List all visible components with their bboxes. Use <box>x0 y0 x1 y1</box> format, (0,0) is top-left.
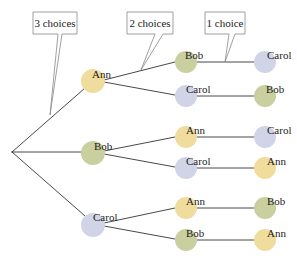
node-ann-bob: Bob <box>175 49 204 73</box>
node-label: Ann <box>186 195 205 207</box>
node-label: Bob <box>267 195 286 207</box>
node-label: Carol <box>186 155 210 167</box>
node-label: Bob <box>94 140 113 152</box>
node-label: Bob <box>185 49 204 61</box>
node-label: Ann <box>186 124 205 136</box>
callout-3-choices: 3 choices <box>33 12 77 115</box>
edge <box>104 154 175 167</box>
node-carol: Carol <box>81 211 117 237</box>
edge <box>104 226 175 239</box>
node-label: Carol <box>267 49 291 61</box>
node-label: Ann <box>267 155 286 167</box>
edge <box>104 82 175 95</box>
callout-label: 2 choices <box>129 17 170 29</box>
node-label: Ann <box>267 227 286 239</box>
leaf-ann-bob-carol: Carol <box>254 49 291 73</box>
callout-label: 3 choices <box>34 17 75 29</box>
node-ann-carol: Carol <box>175 83 210 107</box>
callout-1-choice: 1 choice <box>205 12 245 62</box>
callout-label: 1 choice <box>207 17 244 29</box>
leaf-bob-ann-carol: Carol <box>254 124 291 148</box>
edge-root-carol <box>12 152 85 216</box>
node-carol-bob: Bob <box>175 227 205 251</box>
edges <box>12 62 254 240</box>
edge <box>104 62 175 80</box>
node-label: Carol <box>267 124 291 136</box>
node-bob-ann: Ann <box>175 124 205 148</box>
leaf-bob-carol-ann: Ann <box>254 155 286 179</box>
node-label: Carol <box>186 83 210 95</box>
tree-diagram: 3 choices 2 choices 1 choice Ann Bob Car… <box>0 0 297 263</box>
edge-root-ann <box>12 88 85 152</box>
callout-2-choices: 2 choices <box>127 12 173 70</box>
node-label: Bob <box>266 83 285 95</box>
node-bob: Bob <box>81 140 113 165</box>
edge <box>104 137 175 151</box>
node-bob-carol: Carol <box>175 155 210 179</box>
leaf-carol-ann-bob: Bob <box>254 195 286 219</box>
node-label: Ann <box>92 68 111 80</box>
node-carol-ann: Ann <box>175 195 205 219</box>
node-label: Bob <box>186 227 205 239</box>
leaf-ann-carol-bob: Bob <box>254 83 285 107</box>
node-label: Carol <box>93 211 117 223</box>
node-ann: Ann <box>81 68 111 93</box>
leaf-carol-bob-ann: Ann <box>254 227 286 251</box>
root-node <box>11 151 13 153</box>
